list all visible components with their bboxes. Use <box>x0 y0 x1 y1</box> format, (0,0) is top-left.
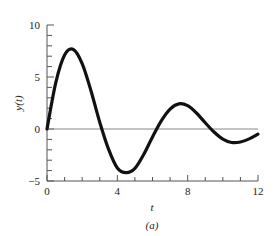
y-tick-label-5: 5 <box>35 71 41 83</box>
x-tick-label-12: 12 <box>253 185 264 197</box>
x-axis-label: t <box>150 201 154 213</box>
y-tick-label-neg5: −5 <box>28 175 40 187</box>
y-tick-label-10: 10 <box>29 19 41 31</box>
y-axis-label: y(t) <box>12 95 25 112</box>
x-tick-label-0: 0 <box>44 185 50 197</box>
y-tick-label-0: 0 <box>35 123 41 135</box>
damped-oscillation-chart: 0 4 8 12 −5 0 5 10 t y(t) (a) <box>0 0 278 236</box>
ticks <box>47 25 258 181</box>
x-tick-label-8: 8 <box>185 185 191 197</box>
series-line-y <box>47 49 258 173</box>
axes <box>47 25 258 181</box>
figure-caption: (a) <box>146 219 159 232</box>
x-tick-label-4: 4 <box>115 185 121 197</box>
